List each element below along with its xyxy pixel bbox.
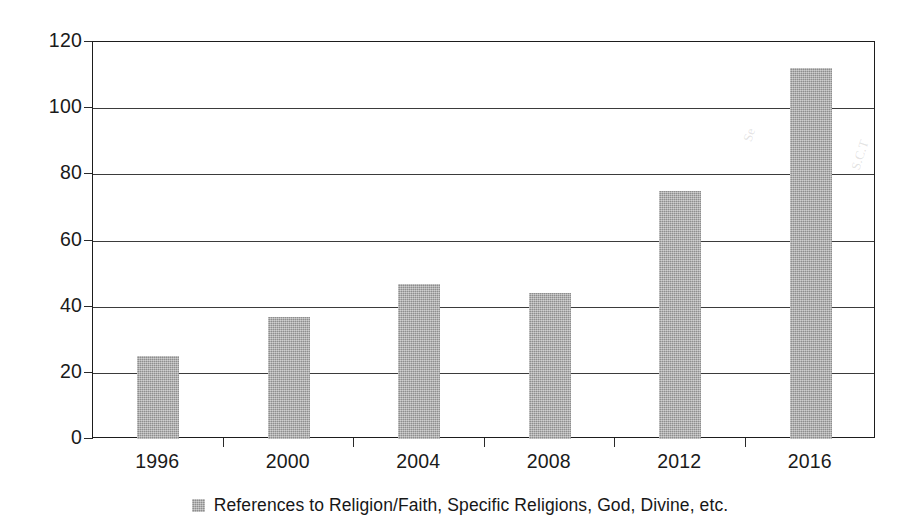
x-axis-tick-label: 2008 <box>489 452 609 472</box>
bar <box>398 284 440 439</box>
gridline <box>93 241 874 242</box>
y-axis-tick-label: 100 <box>12 97 82 117</box>
gridline <box>93 174 874 175</box>
gridline <box>93 108 874 109</box>
bar <box>137 356 179 439</box>
x-axis-tick-label: 1996 <box>97 452 217 472</box>
x-axis-tick-mark <box>745 438 746 447</box>
bar <box>268 317 310 439</box>
bar <box>790 68 832 439</box>
gridline <box>93 373 874 374</box>
chart-page: 020406080100120 Se S.C.T 199620002004200… <box>0 0 920 521</box>
y-axis-tick-label: 80 <box>12 163 82 183</box>
y-axis-tick-label: 60 <box>12 230 82 250</box>
y-axis-tick-mark <box>84 438 93 439</box>
bar <box>529 293 571 439</box>
y-axis-tick-label: 120 <box>12 31 82 51</box>
gridline <box>93 307 874 308</box>
y-axis-tick-label: 40 <box>12 296 82 316</box>
x-axis-tick-mark <box>353 438 354 447</box>
scan-artifact: Se <box>740 126 759 143</box>
x-axis-tick-label: 2004 <box>358 452 478 472</box>
legend-color-swatch <box>192 499 205 512</box>
x-axis-tick-mark <box>614 438 615 447</box>
scan-artifact: S.C.T <box>848 138 873 172</box>
plot-area: Se S.C.T <box>92 41 875 438</box>
x-axis-tick-mark <box>223 438 224 447</box>
x-axis-tick-mark <box>484 438 485 447</box>
x-axis-tick-label: 2012 <box>619 452 739 472</box>
y-axis-tick-label: 20 <box>12 362 82 382</box>
chart-legend: References to Religion/Faith, Specific R… <box>0 497 920 515</box>
x-axis-tick-label: 2016 <box>750 452 870 472</box>
legend-entry-label: References to Religion/Faith, Specific R… <box>214 497 728 515</box>
bar <box>659 191 701 439</box>
x-axis-tick-label: 2000 <box>228 452 348 472</box>
y-axis-tick-label: 0 <box>12 428 82 448</box>
